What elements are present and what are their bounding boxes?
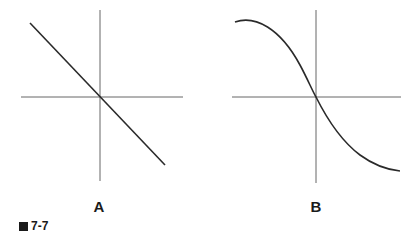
figure-caption: 7-7 (19, 219, 48, 233)
panel-b-label: B (311, 198, 322, 215)
black-square-icon (19, 222, 28, 231)
panel-a-curve (30, 23, 165, 165)
figure-number: 7-7 (31, 219, 48, 233)
figure-canvas (0, 0, 415, 239)
panel-a-label: A (94, 198, 105, 215)
panel-b-curve (235, 20, 400, 171)
